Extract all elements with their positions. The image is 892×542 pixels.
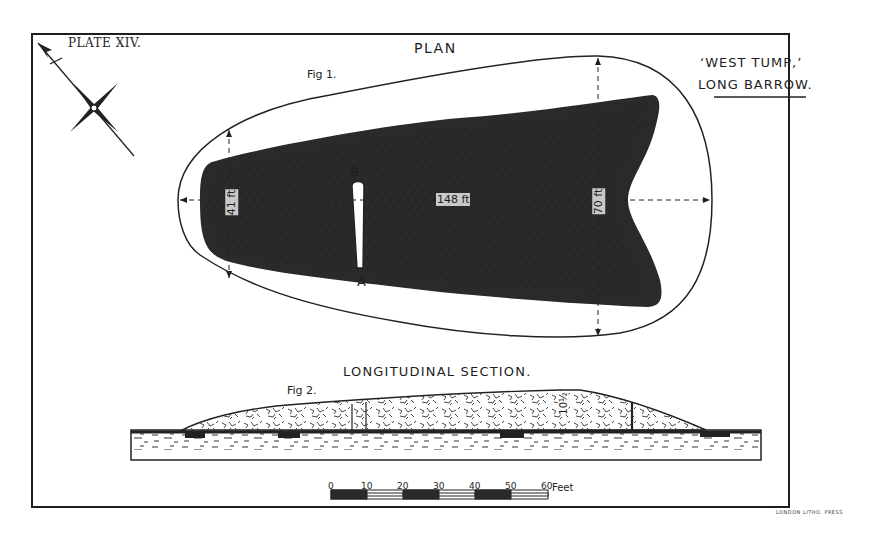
plate-number: PLATE XIV.: [68, 36, 141, 50]
wide-end-dimension-label: 70 ft: [592, 189, 605, 215]
point-a-label: A: [357, 274, 366, 289]
scale-tick-10: 10: [361, 481, 372, 491]
scale-tick-60: 60: [541, 481, 552, 491]
figure-1-label: Fig 1.: [307, 68, 337, 81]
point-b-label: B: [350, 164, 359, 179]
scale-tick-50: 50: [505, 481, 516, 491]
north-arrow-compass-icon: [38, 43, 134, 156]
longitudinal-section-drawing: [131, 390, 761, 460]
scale-tick-0: 0: [328, 481, 334, 491]
section-title: LONGITUDINAL SECTION.: [343, 364, 532, 379]
scale-tick-40: 40: [469, 481, 480, 491]
length-dimension-label: 148 ft: [436, 193, 470, 206]
plan-title: PLAN: [414, 40, 457, 56]
printer-imprint: LONDON LITHO. PRESS: [776, 509, 843, 515]
scale-tick-30: 30: [433, 481, 444, 491]
height-dimension-label: 10½: [558, 392, 569, 414]
scale-bar: [331, 490, 548, 499]
narrow-end-dimension-label: 41 ft: [225, 190, 238, 216]
site-title-line-1: ‘WEST TUMP,’: [700, 55, 802, 70]
site-title-line-2: LONG BARROW.: [698, 77, 813, 92]
figure-2-label: Fig 2.: [287, 384, 317, 397]
scale-unit-label: Feet: [552, 482, 573, 493]
scale-tick-20: 20: [397, 481, 408, 491]
